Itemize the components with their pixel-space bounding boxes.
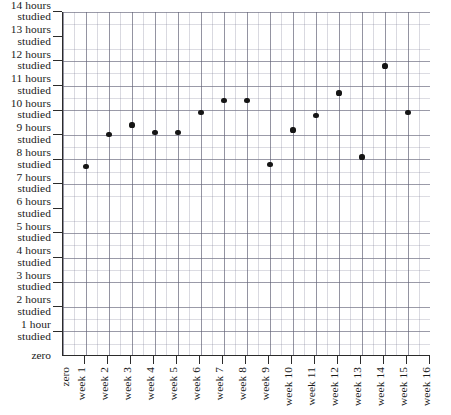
x-axis-tick-mark: [314, 356, 315, 364]
x-axis-tick-label: week 12: [328, 367, 342, 406]
y-axis-tick-label: 11 hoursstudied: [0, 73, 51, 96]
y-axis-tick-label: 3 hoursstudied: [0, 270, 51, 293]
x-axis-tick-mark: [268, 356, 269, 364]
y-axis-tick-label-unit: studied: [0, 159, 51, 171]
x-axis-tick-label: week 10: [282, 367, 296, 406]
data-point: [382, 63, 387, 68]
y-axis-tick-label-unit: studied: [0, 11, 51, 23]
x-axis-tick-label: week 1: [75, 367, 89, 400]
y-axis-tick-label-value: 1 hour: [0, 319, 51, 331]
x-axis-tick-label: week 5: [167, 367, 181, 400]
y-axis-tick-mark: [53, 36, 62, 37]
y-axis-tick-mark: [53, 159, 62, 160]
x-axis-tick-label: week 15: [397, 367, 411, 406]
x-axis-tick-mark: [383, 356, 384, 364]
y-axis-tick-mark: [53, 257, 62, 258]
y-axis-tick-label: 7 hoursstudied: [0, 172, 51, 195]
data-point: [106, 132, 111, 137]
x-axis-tick-label: week 16: [420, 367, 434, 406]
y-axis-tick-label-unit: studied: [0, 183, 51, 195]
data-point: [83, 164, 88, 169]
y-axis-tick-label: 6 hoursstudied: [0, 196, 51, 219]
y-axis-tick-mark: [53, 306, 62, 307]
x-axis-tick-mark: [130, 356, 131, 364]
scatter-chart: 1 hourstudied2 hoursstudied3 hoursstudie…: [0, 0, 451, 415]
y-axis-tick-mark: [53, 11, 62, 12]
y-axis-tick-mark: [53, 282, 62, 283]
x-axis-tick-mark: [176, 356, 177, 364]
y-axis-tick-mark: [53, 134, 62, 135]
y-axis-tick-label: 10 hoursstudied: [0, 98, 51, 121]
y-axis-tick-label-value: 8 hours: [0, 147, 51, 159]
data-point: [129, 122, 134, 127]
y-axis-tick-mark: [53, 183, 62, 184]
x-axis-tick-mark: [107, 356, 108, 364]
y-axis-tick-label: 8 hoursstudied: [0, 147, 51, 170]
y-axis-tick-mark: [53, 110, 62, 111]
y-axis-tick-label-value: 6 hours: [0, 196, 51, 208]
y-axis-tick-label: 2 hoursstudied: [0, 294, 51, 317]
y-axis-tick-label-unit: studied: [0, 281, 51, 293]
x-axis: zeroweek 1week 2week 3week 4week 5week 6…: [0, 356, 451, 415]
y-axis-tick-mark: [53, 208, 62, 209]
data-point: [336, 90, 341, 95]
x-axis-tick-mark: [360, 356, 361, 364]
data-point: [152, 130, 157, 135]
x-axis-tick-mark: [84, 356, 85, 364]
y-axis-tick-label: 13 hoursstudied: [0, 24, 51, 47]
y-axis-tick-label-unit: studied: [0, 257, 51, 269]
x-axis-tick-label: week 9: [259, 367, 273, 400]
y-axis-tick-label-unit: studied: [0, 331, 51, 343]
y-axis-tick-label-unit: studied: [0, 306, 51, 318]
data-point: [267, 162, 272, 167]
x-axis-tick-label: week 8: [236, 367, 250, 400]
data-point: [244, 98, 249, 103]
x-axis-zero-label: zero: [59, 367, 73, 387]
x-axis-tick-mark: [245, 356, 246, 364]
y-axis-tick-label-unit: studied: [0, 60, 51, 72]
x-axis-tick-mark: [222, 356, 223, 364]
x-axis-tick-label: week 14: [374, 367, 388, 406]
data-point: [313, 113, 318, 118]
x-axis-tick-label: week 11: [305, 367, 319, 406]
y-axis-tick-label-value: 13 hours: [0, 24, 51, 36]
y-axis-tick-label: 9 hoursstudied: [0, 122, 51, 145]
data-point: [359, 154, 364, 159]
data-point: [405, 110, 410, 115]
x-axis-tick-label: week 13: [351, 367, 365, 406]
x-axis-tick-mark: [199, 356, 200, 364]
x-axis-tick-mark: [153, 356, 154, 364]
y-axis-tick-mark: [53, 60, 62, 61]
x-axis-tick-label: week 4: [144, 367, 158, 400]
data-point: [221, 98, 226, 103]
y-axis-tick-label: 1 hourstudied: [0, 319, 51, 342]
data-point: [290, 127, 295, 132]
x-axis-tick-label: week 3: [121, 367, 135, 400]
y-axis-tick-label: 4 hoursstudied: [0, 245, 51, 268]
x-axis-tick-label: week 7: [213, 367, 227, 400]
y-axis-tick-mark: [53, 331, 62, 332]
data-point: [175, 130, 180, 135]
y-axis-tick-label: 12 hoursstudied: [0, 49, 51, 72]
y-axis-tick-label-unit: studied: [0, 109, 51, 121]
x-axis-tick-mark: [406, 356, 407, 364]
y-axis-tick-mark: [53, 85, 62, 86]
y-axis-tick-label-unit: studied: [0, 208, 51, 220]
plot-area: [62, 12, 430, 356]
y-axis-tick-mark: [53, 232, 62, 233]
y-axis-tick-label: 14 hoursstudied: [0, 0, 51, 23]
x-axis-tick-label: week 2: [98, 367, 112, 400]
y-axis-tick-label: 5 hoursstudied: [0, 221, 51, 244]
x-axis-tick-mark: [337, 356, 338, 364]
x-axis-tick-mark: [429, 356, 430, 364]
y-axis-tick-label-unit: studied: [0, 134, 51, 146]
y-axis-tick-label-unit: studied: [0, 232, 51, 244]
x-axis-tick-mark: [291, 356, 292, 364]
x-axis-tick-label: week 6: [190, 367, 204, 400]
y-axis-tick-label-unit: studied: [0, 36, 51, 48]
y-axis-tick-label-unit: studied: [0, 85, 51, 97]
y-axis: 1 hourstudied2 hoursstudied3 hoursstudie…: [0, 0, 62, 415]
data-point: [198, 110, 203, 115]
